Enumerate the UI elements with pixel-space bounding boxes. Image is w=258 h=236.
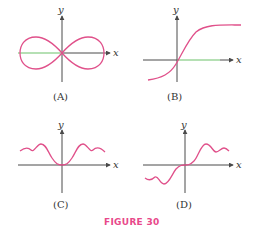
panel-label-d: (D) [176, 199, 192, 210]
figure-30: x y (A) x y (B) x y (C) x y (D) FIGURE 3… [0, 0, 258, 236]
x-label-a: x [113, 47, 119, 58]
x-label-b: x [236, 54, 242, 65]
panel-c: x y (C) [18, 119, 119, 210]
y-label-d: y [180, 119, 187, 130]
panel-a: x y (A) [18, 4, 119, 102]
panel-d: x y (D) [143, 119, 242, 210]
figure-caption: FIGURE 30 [104, 217, 160, 227]
y-label-a: y [57, 4, 64, 15]
sigmoid-curve [148, 25, 241, 80]
x-label-d: x [236, 159, 242, 170]
panel-label-a: (A) [53, 91, 68, 102]
odd-oscillating-curve [145, 144, 229, 184]
y-label-b: y [172, 4, 179, 15]
panel-b: x y (B) [143, 4, 242, 102]
x-label-c: x [113, 159, 119, 170]
panel-label-b: (B) [167, 91, 182, 102]
y-label-c: y [57, 119, 64, 130]
panel-label-c: (C) [53, 199, 69, 210]
